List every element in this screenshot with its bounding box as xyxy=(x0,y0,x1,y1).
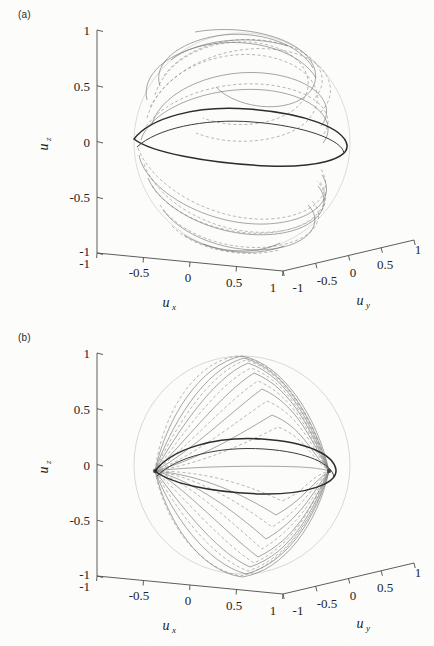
y-axis-title-b: u y xyxy=(357,616,371,633)
x-tick-05-b: 0.5 xyxy=(226,598,242,613)
x-tick-neg05-b: -0.5 xyxy=(129,588,150,603)
panel-a-trajectories xyxy=(134,30,350,254)
panel-b-axes: 1 0.5 0 -0.5 -1 -1 -0.5 0 0.5 1 -1 -0.5 … xyxy=(36,346,421,635)
y-tick-1: 1 xyxy=(415,242,422,257)
z-tick-0-b: 0 xyxy=(84,458,91,473)
x-tick-0-b: 0 xyxy=(185,593,192,608)
x-tick-neg1: -1 xyxy=(79,256,90,271)
z-axis-title-sub: z xyxy=(43,137,53,142)
x-axis-title-sub: x xyxy=(171,302,176,312)
y-axis-title-sub: y xyxy=(365,300,370,310)
y-tick-neg05: -0.5 xyxy=(317,273,338,288)
y-tick-05: 0.5 xyxy=(377,257,393,272)
x-tick-neg1-b: -1 xyxy=(79,579,90,594)
z-axis-title-u-b: u xyxy=(36,467,51,474)
meridian-bundle-solid-b xyxy=(155,356,329,577)
y-axis-title-u: u xyxy=(357,293,364,308)
panel-b-plot: 1 0.5 0 -0.5 -1 -1 -0.5 0 0.5 1 -1 -0.5 … xyxy=(0,323,434,646)
z-axis-title-b: u z xyxy=(36,460,53,474)
z-tick-05: 0.5 xyxy=(74,79,90,94)
z-axis-title: u z xyxy=(36,137,53,151)
y-tick-neg05-b: -0.5 xyxy=(317,596,338,611)
z-tick-05-b: 0.5 xyxy=(74,402,90,417)
x-axis-title: u x xyxy=(163,295,177,312)
x-tick-0: 0 xyxy=(185,270,192,285)
z-axis-ticks xyxy=(97,30,103,255)
panel-a-equator-attractor xyxy=(134,108,347,166)
y-axis-title: u y xyxy=(357,293,371,310)
x-tick-05: 0.5 xyxy=(226,275,242,290)
y-axis-title-u-b: u xyxy=(357,616,364,631)
z-axis-ticks-b xyxy=(97,353,103,578)
y-tick-neg1-b: -1 xyxy=(293,603,304,618)
x-tick-neg05: -0.5 xyxy=(129,265,150,280)
panel-a-axes: 1 0.5 0 -0.5 -1 -1 -0.5 0 0.5 1 -1 -0.5 … xyxy=(36,23,421,312)
y-tick-05-b: 0.5 xyxy=(377,580,393,595)
z-tick-0: 0 xyxy=(84,135,91,150)
z-tick-neg05-b: -0.5 xyxy=(69,513,90,528)
panel-b-sphere-outline xyxy=(134,356,350,574)
panel-b-trajectories xyxy=(134,356,350,577)
z-tick-1-b: 1 xyxy=(84,346,91,361)
y-tick-0: 0 xyxy=(350,265,357,280)
panel-b: (b) xyxy=(0,323,434,646)
y-tick-neg1: -1 xyxy=(293,280,304,295)
panel-a: (a) xyxy=(0,0,434,323)
x-axis-title-u: u xyxy=(163,295,170,310)
y-tick-1-b: 1 xyxy=(415,565,422,580)
x-axis-title-b: u x xyxy=(163,618,177,635)
x-tick-1-b: 1 xyxy=(270,603,277,618)
x-axis-title-sub-b: x xyxy=(171,625,176,635)
panel-a-plot: 1 0.5 0 -0.5 -1 -1 -0.5 0 0.5 1 -1 -0.5 … xyxy=(0,0,434,323)
z-axis-title-u: u xyxy=(36,144,51,151)
y-axis-title-sub-b: y xyxy=(365,623,370,633)
z-tick-neg05: -0.5 xyxy=(69,190,90,205)
x-axis-title-u-b: u xyxy=(163,618,170,633)
z-tick-1: 1 xyxy=(84,23,91,38)
traj-group-dashed-a xyxy=(138,39,330,253)
y-tick-0-b: 0 xyxy=(350,588,357,603)
x-tick-1: 1 xyxy=(270,280,277,295)
panel-b-node-right xyxy=(327,469,331,473)
panel-b-node-left xyxy=(153,469,157,473)
z-axis-title-sub-b: z xyxy=(43,460,53,465)
